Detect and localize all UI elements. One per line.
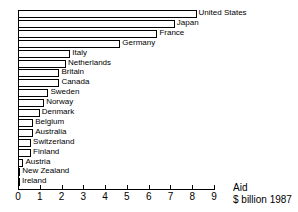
x-axis-tick xyxy=(127,185,128,190)
bar xyxy=(18,139,31,147)
x-axis-tick-label: 4 xyxy=(99,191,111,203)
bar xyxy=(18,109,40,117)
bar xyxy=(18,10,197,18)
x-axis-tick xyxy=(192,185,193,190)
bar-label: Italy xyxy=(72,48,87,58)
plot-area: United StatesJapanFranceGermanyItalyNeth… xyxy=(0,0,298,212)
x-axis-tick-label: 7 xyxy=(164,191,176,203)
bar-label: Germany xyxy=(122,38,155,48)
bar xyxy=(18,40,120,48)
y-axis-line xyxy=(18,10,19,190)
aid-bar-chart: United StatesJapanFranceGermanyItalyNeth… xyxy=(0,0,298,212)
x-axis-tick-label: 6 xyxy=(143,191,155,203)
x-axis-tick xyxy=(105,185,106,190)
x-axis-tick xyxy=(40,185,41,190)
bar xyxy=(18,20,175,28)
x-axis-tick-label: 1 xyxy=(34,191,46,203)
bar xyxy=(18,149,31,157)
bar xyxy=(18,69,59,77)
x-axis-tick xyxy=(62,185,63,190)
bar xyxy=(18,79,59,87)
bar-label: France xyxy=(159,28,184,38)
bar-label: Australia xyxy=(35,127,66,137)
bar-label: Japan xyxy=(177,18,199,28)
bar-label: Denmark xyxy=(42,107,74,117)
bar-label: Belgium xyxy=(35,117,64,127)
bar-label: Switzerland xyxy=(33,137,74,147)
bar-label: Netherlands xyxy=(68,58,111,68)
bar-label: Ireland xyxy=(22,176,46,186)
x-axis-tick-label: 0 xyxy=(12,191,24,203)
axis-title-units: $ billion 1987 xyxy=(233,194,292,205)
bar-label: Sweden xyxy=(50,87,79,97)
bar xyxy=(18,99,44,107)
bar-label: Norway xyxy=(46,97,73,107)
x-axis-tick xyxy=(214,185,215,190)
bar-label: New Zealand xyxy=(22,166,69,176)
x-axis-tick xyxy=(170,185,171,190)
bar xyxy=(18,30,157,38)
bar xyxy=(18,89,48,97)
x-axis-tick xyxy=(18,185,19,190)
bar-label: Canada xyxy=(61,77,89,87)
bar-label: United States xyxy=(199,8,247,18)
bar xyxy=(18,50,70,58)
bar xyxy=(18,119,33,127)
x-axis-tick-label: 8 xyxy=(186,191,198,203)
x-axis-tick-label: 9 xyxy=(208,191,220,203)
bar xyxy=(18,129,33,137)
x-axis-line xyxy=(18,189,214,190)
x-axis-tick-label: 5 xyxy=(121,191,133,203)
bar-label: Finland xyxy=(33,147,59,157)
axis-title-aid: Aid xyxy=(233,182,247,193)
bar-label: Britain xyxy=(61,67,84,77)
x-axis-tick xyxy=(83,185,84,190)
bar xyxy=(18,60,66,68)
x-axis-tick xyxy=(149,185,150,190)
x-axis-tick-label: 2 xyxy=(56,191,68,203)
x-axis-tick-label: 3 xyxy=(77,191,89,203)
bar-label: Austria xyxy=(25,157,50,167)
